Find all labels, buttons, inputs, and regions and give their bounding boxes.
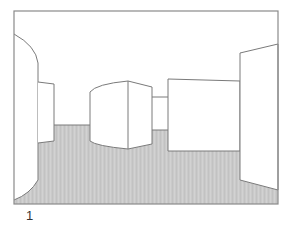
right-wall xyxy=(240,44,278,190)
central-pillar xyxy=(90,81,152,149)
corridor-illustration xyxy=(0,0,291,233)
left-curved-wall xyxy=(14,34,38,200)
left-back-panel xyxy=(38,82,54,143)
gap-panel xyxy=(152,97,168,130)
right-box xyxy=(168,79,240,151)
figure-label: 1 xyxy=(26,208,33,223)
